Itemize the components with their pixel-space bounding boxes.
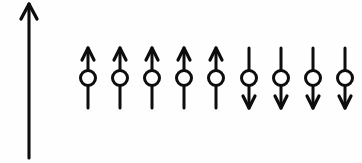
spin-circle: [306, 71, 321, 86]
spin-circle: [177, 71, 192, 86]
spin-chain-figure: Hand-drawn magnetic spin chain: a tall v…: [0, 0, 362, 163]
spin-circle: [242, 71, 257, 86]
spin-circle: [209, 71, 224, 86]
spin-chain-canvas: [0, 0, 362, 163]
spin-circle: [145, 71, 160, 86]
spin-circle: [274, 71, 289, 86]
spin-circle: [113, 71, 128, 86]
spin-row: [81, 48, 353, 108]
spin-circle: [81, 71, 96, 86]
spin-circle: [338, 71, 353, 86]
